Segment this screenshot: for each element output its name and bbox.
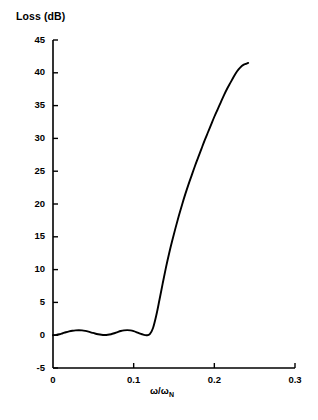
y-tick-label: 30 (19, 132, 45, 143)
x-tick-label: 0.1 (121, 374, 147, 385)
y-tick-label: 45 (19, 34, 45, 45)
x-tick-label: 0.3 (282, 374, 308, 385)
x-axis-title: ω/ωN (150, 385, 174, 398)
y-tick-label: 0 (19, 329, 45, 340)
y-tick-label: 20 (19, 198, 45, 209)
y-tick-label: 25 (19, 165, 45, 176)
x-axis-title-main: ω/ω (150, 385, 169, 396)
y-tick-label: 10 (19, 263, 45, 274)
y-tick-label: 15 (19, 230, 45, 241)
y-tick-label: 35 (19, 99, 45, 110)
x-tick-label: 0.2 (201, 374, 227, 385)
loss-curve-line (53, 63, 248, 335)
y-axis-title: Loss (dB) (16, 10, 65, 22)
y-tick-label: 5 (19, 296, 45, 307)
chart-plot-area (0, 0, 318, 420)
axis-frame (53, 40, 295, 368)
x-tick-label: 0 (40, 374, 66, 385)
figure-container: Loss (dB) ω/ωN -5051015202530354045 00.1… (0, 0, 318, 420)
x-axis-title-subscript: N (169, 391, 174, 398)
y-tick-label: 40 (19, 66, 45, 77)
y-tick-label: -5 (19, 362, 45, 373)
